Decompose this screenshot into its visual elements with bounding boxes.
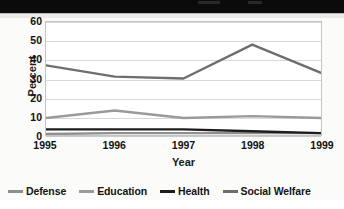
y-axis-tick-labels: 0102030405060 [22,18,42,140]
y-tick-label: 10 [22,112,42,123]
line-chart: Percent 0102030405060 199519961997199819… [0,18,344,209]
legend-item[interactable]: Education [79,185,147,197]
chart-legend: DefenseEducationHealthSocial Welfare [8,181,338,201]
legend-label: Education [97,185,147,197]
banner-artifact [248,1,262,4]
series-line [46,133,321,134]
series-line [46,45,321,79]
legend-item[interactable]: Health [160,185,210,197]
series-lines [46,22,321,135]
legend-line-icon [160,190,175,193]
footer-strip [0,200,344,209]
x-axis-tick-labels: 19951996199719981999 [45,139,322,155]
y-tick-label: 40 [22,54,42,65]
chart-screenshot: Percent 0102030405060 199519961997199819… [0,0,344,209]
series-line [46,111,321,119]
x-tick-label: 1999 [299,139,344,151]
y-tick-label: 30 [22,73,42,84]
legend-label: Defense [26,185,66,197]
legend-line-icon [223,190,238,193]
x-tick-label: 1996 [91,139,137,151]
plot-area [45,21,322,136]
x-tick-label: 1997 [161,139,207,151]
legend-item[interactable]: Defense [8,185,66,197]
legend-label: Health [178,185,210,197]
banner-artifact [198,1,220,4]
legend-item[interactable]: Social Welfare [223,185,311,197]
y-tick-label: 20 [22,92,42,103]
legend-label: Social Welfare [241,185,311,197]
y-tick-label: 50 [22,35,42,46]
y-tick-label: 60 [22,16,42,27]
legend-line-icon [8,190,23,193]
legend-line-icon [79,190,94,193]
header-banner [0,0,344,13]
x-tick-label: 1998 [230,139,276,151]
gridline [46,136,321,137]
x-tick-label: 1995 [22,139,68,151]
x-axis-title: Year [45,156,322,168]
